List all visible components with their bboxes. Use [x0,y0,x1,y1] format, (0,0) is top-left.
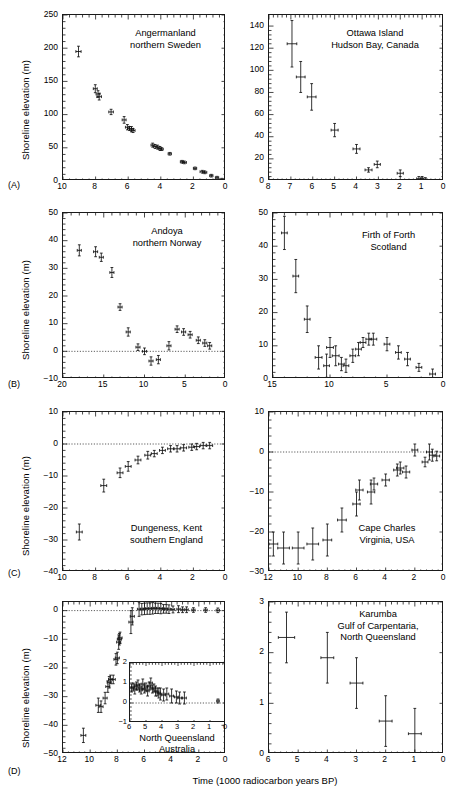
y-axis-title: Shoreline elevation (m) [20,456,31,556]
x-tick-label: 5 [287,755,307,764]
panel-letter-d: (D) [8,766,21,776]
site-label-line: North Queensland [321,632,435,644]
y-tick-label: 1 [236,698,264,707]
y-tick-label: 2 [236,647,264,656]
x-tick-label: 6 [258,755,278,764]
site-label-karumba: KarumbaGulf of Carpentaria,North Queensl… [321,609,435,644]
x-tick-label: 3 [346,755,366,764]
y-tick-label: 3 [236,597,264,606]
panel-letter-c: (C) [8,568,21,578]
figure-root: 0501001502002501086420Angermanlandnorthe… [0,0,461,799]
panel-letter-b: (B) [8,379,20,389]
y-axis-title: Shoreline elevation (m) [20,60,31,160]
x-tick-label: 4 [316,755,336,764]
site-label-line: Karumba [321,609,435,621]
panel-karumba: 01236543210KarumbaGulf of Carpentaria,No… [0,0,461,799]
site-label-line: Gulf of Carpentaria, [321,621,435,633]
x-tick-label: 0 [433,755,453,764]
y-axis-title: Shoreline elevation (m) [20,260,31,360]
x-tick-label: 1 [404,755,424,764]
y-axis-title: Shoreline elevation (m) [20,648,31,748]
x-tick-label: 2 [375,755,395,764]
panel-letter-a: (A) [8,180,20,190]
x-axis-title: Time (1000 radiocarbon years BP) [150,775,380,786]
